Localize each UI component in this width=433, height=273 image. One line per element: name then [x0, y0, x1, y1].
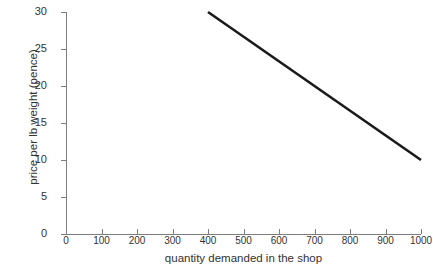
y-axis-line [66, 12, 67, 235]
x-tick-mark [421, 229, 422, 234]
x-tick-label: 200 [117, 236, 157, 246]
x-tick-label: 700 [295, 236, 335, 246]
x-tick-mark [137, 229, 138, 234]
x-tick-label: 900 [366, 236, 406, 246]
x-tick-mark [315, 229, 316, 234]
x-tick-mark [350, 229, 351, 234]
y-tick-mark [61, 86, 66, 87]
x-tick-label: 100 [82, 236, 122, 246]
y-tick-label: 25 [7, 43, 47, 54]
x-tick-mark [102, 229, 103, 234]
x-tick-mark [173, 229, 174, 234]
y-tick-label: 20 [7, 80, 47, 91]
x-tick-mark [208, 229, 209, 234]
x-tick-label: 500 [224, 236, 264, 246]
plot-area [0, 0, 433, 273]
x-tick-mark [244, 229, 245, 234]
demand-curve-chart: price per lb weight (pence) quantity dem… [0, 0, 433, 273]
y-tick-label: 30 [7, 6, 47, 17]
y-tick-label: 15 [7, 117, 47, 128]
x-tick-label: 800 [330, 236, 370, 246]
y-tick-mark [61, 12, 66, 13]
x-tick-label: 1000 [401, 236, 433, 246]
x-tick-mark [279, 229, 280, 234]
data-line [208, 12, 421, 160]
y-tick-mark [61, 197, 66, 198]
y-tick-label: 0 [7, 228, 47, 239]
x-axis-title: quantity demanded in the shop [66, 252, 421, 264]
y-tick-label: 10 [7, 154, 47, 165]
x-tick-label: 600 [259, 236, 299, 246]
x-tick-mark [386, 229, 387, 234]
data-series-group [208, 12, 421, 160]
x-tick-label: 400 [188, 236, 228, 246]
x-tick-mark [66, 229, 67, 234]
y-tick-mark [61, 160, 66, 161]
x-tick-label: 0 [46, 236, 86, 246]
y-tick-label: 5 [7, 191, 47, 202]
x-tick-label: 300 [153, 236, 193, 246]
y-tick-mark [61, 49, 66, 50]
y-tick-mark [61, 123, 66, 124]
